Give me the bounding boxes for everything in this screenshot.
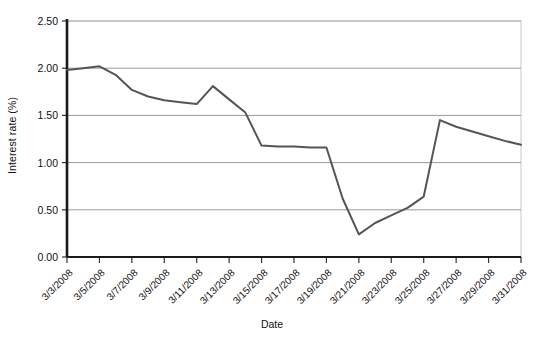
- plot-background: [67, 21, 521, 257]
- line-chart: Interest rate (%) 0.000.501.001.502.002.…: [0, 0, 544, 348]
- x-axis-title: Date: [0, 318, 544, 330]
